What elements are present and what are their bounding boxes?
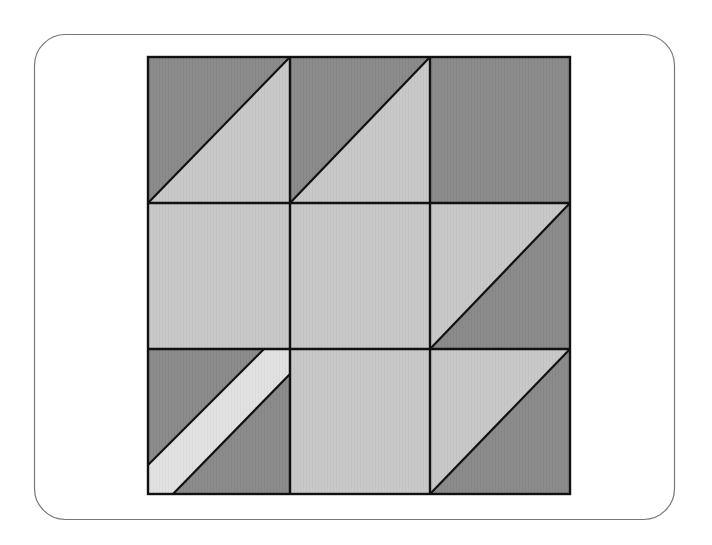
light-square xyxy=(148,203,290,349)
cell-r0-c2 xyxy=(430,57,570,203)
cell-r0-c0 xyxy=(148,57,290,203)
cell-r2-c0 xyxy=(148,349,290,494)
cell-r1-c2 xyxy=(430,203,570,349)
quilt-svg xyxy=(0,0,712,545)
quilt-diagram xyxy=(0,0,712,545)
cell-r1-c1 xyxy=(290,203,430,349)
cell-r2-c2 xyxy=(430,349,570,494)
cell-r0-c1 xyxy=(290,57,430,203)
cell-r1-c0 xyxy=(148,203,290,349)
light-square xyxy=(290,203,430,349)
dark-square xyxy=(430,57,570,203)
cell-r2-c1 xyxy=(290,349,430,494)
light-square xyxy=(290,349,430,494)
